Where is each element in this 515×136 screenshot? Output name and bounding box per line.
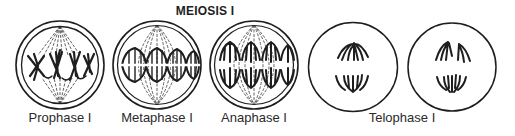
telophase-cell-2 [408,23,496,111]
anaphase-cell [210,21,298,109]
label-metaphase: Metaphase I [107,110,207,125]
chromosomes [336,43,368,92]
chromosomes [220,42,294,88]
chromosomes [436,42,470,92]
prophase-cell [16,21,104,109]
spindle-fibers [234,25,274,105]
telophase-cell-1 [309,23,398,112]
label-anaphase: Anaphase I [204,110,304,125]
label-prophase: Prophase I [10,110,110,125]
metaphase-cell [113,21,201,109]
label-telophase: Telophase I [352,110,452,125]
